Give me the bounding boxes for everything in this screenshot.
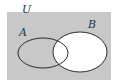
universe-label: U — [22, 3, 32, 16]
set-b-label: B — [87, 18, 96, 31]
set-a-label: A — [18, 26, 27, 39]
venn-diagram: U A B — [0, 0, 116, 83]
